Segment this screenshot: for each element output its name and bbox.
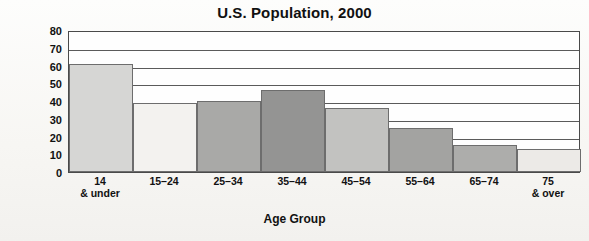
x-tick-label-6: 55–64	[388, 176, 452, 188]
x-tick-line1: 45–54	[341, 175, 370, 187]
y-tick-label-60: 60	[50, 61, 62, 72]
y-tick-label-70: 70	[50, 43, 62, 54]
y-tick-label-30: 30	[50, 114, 62, 125]
x-tick-label-7: 65–74	[452, 176, 516, 188]
bar-1	[69, 64, 133, 172]
x-tick-line1: 35–44	[277, 175, 306, 187]
plot-area	[68, 31, 580, 173]
chart-figure: U.S. Population, 2000 Population (in mil…	[0, 0, 589, 241]
x-tick-line1: 25–34	[213, 175, 242, 187]
x-tick-label-8: 75& over	[516, 176, 580, 199]
x-tick-line1: 15–24	[149, 175, 178, 187]
x-axis-tick-labels: 14& under15–2425–3435–4445–5455–6465–747…	[68, 176, 580, 210]
x-tick-label-5: 45–54	[324, 176, 388, 188]
y-tick-label-40: 40	[50, 97, 62, 108]
y-tick-label-0: 0	[56, 168, 62, 179]
bar-6	[389, 128, 453, 172]
bar-series	[69, 32, 579, 172]
y-axis-tick-labels: 80706050403020100	[0, 31, 66, 173]
x-tick-line2: & under	[68, 188, 132, 200]
x-tick-line1: 75	[542, 175, 554, 187]
x-axis-title: Age Group	[0, 212, 589, 226]
bar-2	[133, 103, 197, 172]
bar-8	[517, 149, 581, 172]
x-tick-label-1: 14& under	[68, 176, 132, 199]
bar-5	[325, 108, 389, 172]
bar-4	[261, 90, 325, 172]
bar-3	[197, 101, 261, 172]
x-tick-line1: 65–74	[469, 175, 498, 187]
y-tick-label-20: 20	[50, 132, 62, 143]
chart-title: U.S. Population, 2000	[0, 4, 589, 21]
y-tick-label-50: 50	[50, 79, 62, 90]
x-tick-line1: 55–64	[405, 175, 434, 187]
bar-7	[453, 145, 517, 172]
x-tick-label-3: 25–34	[196, 176, 260, 188]
x-tick-label-4: 35–44	[260, 176, 324, 188]
y-tick-label-80: 80	[50, 26, 62, 37]
y-tick-label-10: 10	[50, 150, 62, 161]
x-tick-line1: 14	[94, 175, 106, 187]
x-tick-label-2: 15–24	[132, 176, 196, 188]
x-tick-line2: & over	[516, 188, 580, 200]
